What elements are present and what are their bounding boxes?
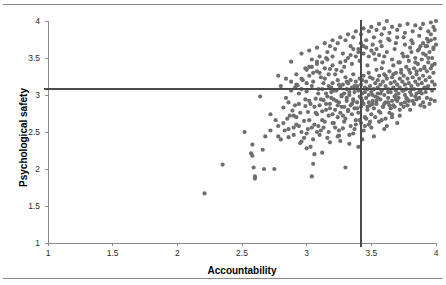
scatter-point bbox=[328, 102, 332, 106]
scatter-point bbox=[324, 91, 328, 95]
scatter-point bbox=[385, 50, 389, 54]
scatter-point bbox=[290, 108, 294, 112]
scatter-point bbox=[398, 60, 402, 64]
scatter-point bbox=[420, 57, 424, 61]
scatter-point bbox=[424, 90, 428, 94]
scatter-point bbox=[323, 66, 327, 70]
scatter-point bbox=[383, 117, 387, 121]
scatter-point bbox=[323, 77, 327, 81]
scatter-point bbox=[293, 103, 297, 107]
scatter-point bbox=[286, 100, 290, 104]
scatter-point bbox=[341, 51, 345, 55]
scatter-point bbox=[284, 77, 288, 81]
scatter-point bbox=[310, 125, 314, 129]
scatter-point bbox=[416, 49, 420, 53]
scatter-point bbox=[311, 71, 315, 75]
scatter-point bbox=[343, 75, 347, 79]
scatter-point bbox=[403, 43, 407, 47]
scatter-point bbox=[395, 28, 399, 32]
scatter-point bbox=[403, 83, 407, 87]
x-axis-title: Accountability bbox=[48, 265, 436, 276]
scatter-point bbox=[387, 111, 391, 115]
scatter-point bbox=[381, 80, 385, 84]
scatter-point bbox=[315, 130, 319, 134]
scatter-point bbox=[374, 28, 378, 32]
scatter-point bbox=[305, 146, 309, 150]
scatter-point bbox=[391, 72, 395, 76]
scatter-point bbox=[421, 100, 425, 104]
scatter-point bbox=[347, 90, 351, 94]
scatter-point bbox=[333, 125, 337, 129]
scatter-point bbox=[315, 62, 319, 66]
scatter-point bbox=[418, 68, 422, 72]
scatter-point bbox=[299, 51, 303, 55]
scatter-point bbox=[347, 133, 351, 137]
scatter-point bbox=[343, 165, 347, 169]
scatter-point bbox=[250, 154, 254, 158]
scatter-point bbox=[391, 63, 395, 67]
scatter-point bbox=[318, 54, 322, 58]
y-tick-label: 3.5 bbox=[0, 54, 40, 63]
scatter-point bbox=[336, 78, 340, 82]
scatter-point bbox=[363, 90, 367, 94]
scatter-point bbox=[318, 103, 322, 107]
data-points-group bbox=[202, 19, 438, 196]
scatter-point bbox=[361, 74, 365, 78]
plot-canvas bbox=[0, 0, 446, 285]
scatter-point bbox=[354, 29, 358, 33]
scatter-point bbox=[431, 47, 435, 51]
scatter-point bbox=[385, 19, 389, 23]
scatter-point bbox=[426, 29, 430, 33]
scatter-point bbox=[261, 148, 265, 152]
scatter-point bbox=[399, 71, 403, 75]
scatter-point bbox=[253, 177, 257, 181]
scatter-point bbox=[281, 121, 285, 125]
scatter-point bbox=[412, 102, 416, 106]
scatter-point bbox=[369, 112, 373, 116]
scatter-point bbox=[421, 22, 425, 26]
scatter-point bbox=[339, 69, 343, 73]
scatter-point bbox=[361, 26, 365, 30]
scatter-point bbox=[307, 74, 311, 78]
scatter-point bbox=[398, 114, 402, 118]
scatter-point bbox=[380, 66, 384, 70]
scatter-point bbox=[409, 93, 413, 97]
scatter-point bbox=[299, 130, 303, 134]
scatter-point bbox=[354, 54, 358, 58]
scatter-point bbox=[221, 162, 225, 166]
scatter-point bbox=[355, 100, 359, 104]
scatter-point bbox=[305, 68, 309, 72]
scatter-point bbox=[299, 77, 303, 81]
scatter-point bbox=[327, 130, 331, 134]
scatter-point bbox=[294, 115, 298, 119]
scatter-point bbox=[413, 56, 417, 60]
scatter-point bbox=[330, 63, 334, 67]
scatter-point bbox=[279, 84, 283, 88]
scatter-point bbox=[380, 44, 384, 48]
scatter-point bbox=[310, 174, 314, 178]
scatter-point bbox=[319, 97, 323, 101]
scatter-point bbox=[320, 109, 324, 113]
scatter-point bbox=[380, 32, 384, 36]
scatter-point bbox=[430, 63, 434, 67]
scatter-point bbox=[387, 38, 391, 42]
scatter-point bbox=[433, 37, 437, 41]
scatter-point bbox=[400, 51, 404, 55]
scatter-point bbox=[330, 54, 334, 58]
scatter-point bbox=[383, 74, 387, 78]
x-tick-label: 3.5 bbox=[365, 249, 377, 258]
scatter-point bbox=[349, 44, 353, 48]
scatter-point bbox=[315, 46, 319, 50]
scatter-point bbox=[374, 47, 378, 51]
scatter-point bbox=[342, 120, 346, 124]
scatter-point bbox=[372, 106, 376, 110]
scatter-point bbox=[307, 118, 311, 122]
scatter-point bbox=[328, 67, 332, 71]
scatter-point bbox=[361, 51, 365, 55]
scatter-point bbox=[390, 115, 394, 119]
scatter-point bbox=[341, 114, 345, 118]
scatter-point bbox=[276, 74, 280, 78]
scatter-point bbox=[321, 81, 325, 85]
scatter-point bbox=[284, 96, 288, 100]
scatter-point bbox=[242, 130, 246, 134]
